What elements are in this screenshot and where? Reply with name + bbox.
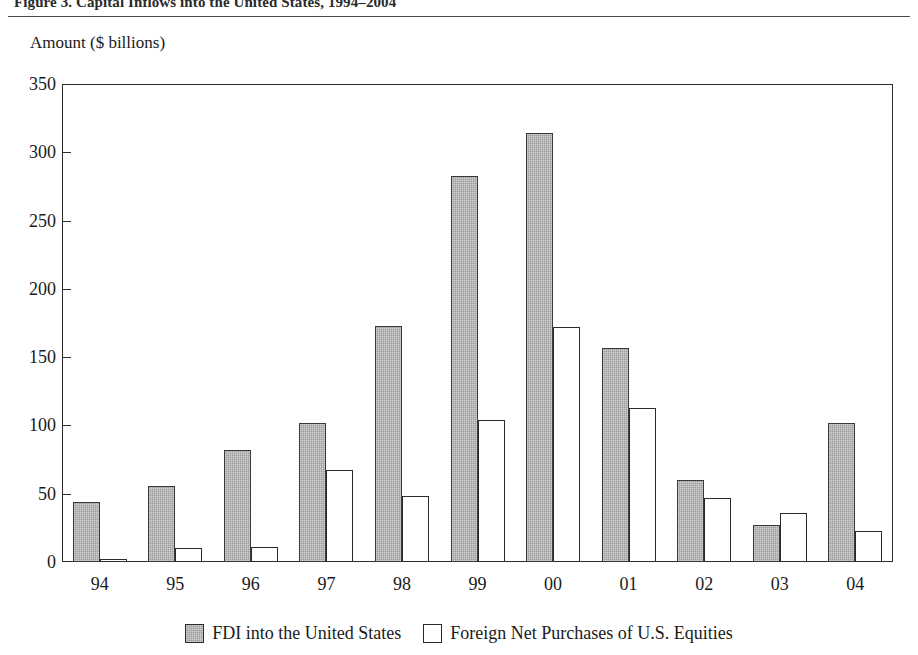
x-axis-tick-label: 03 [771,574,789,595]
x-axis-tick-label: 95 [166,574,184,595]
legend-item-equities: Foreign Net Purchases of U.S. Equities [423,623,732,644]
legend-label: Foreign Net Purchases of U.S. Equities [450,623,732,644]
x-axis-tick-label: 98 [393,574,411,595]
x-axis-tick-label: 02 [695,574,713,595]
figure-container: Figure 3. Capital Inflows into the Unite… [0,0,918,655]
x-axis-tick-labels: 9495969798990001020304 [0,0,918,655]
legend-swatch-icon [423,624,442,643]
legend-item-fdi: FDI into the United States [185,623,401,644]
legend-swatch-icon [185,624,204,643]
x-axis-tick-label: 97 [317,574,335,595]
x-axis-tick-label: 94 [91,574,109,595]
chart-legend: FDI into the United StatesForeign Net Pu… [0,620,918,646]
legend-label: FDI into the United States [212,623,401,644]
x-axis-tick-label: 99 [469,574,487,595]
x-axis-tick-label: 04 [846,574,864,595]
x-axis-tick-label: 00 [544,574,562,595]
x-axis-tick-label: 96 [242,574,260,595]
x-axis-tick-label: 01 [620,574,638,595]
